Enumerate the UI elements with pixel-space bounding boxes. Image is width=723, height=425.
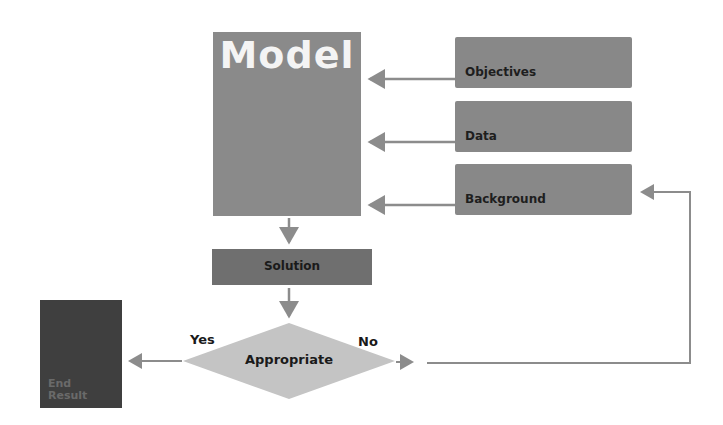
objectives-label: Objectives xyxy=(465,65,536,79)
model-box: Model xyxy=(213,32,361,216)
data-box: Data xyxy=(455,101,632,152)
yes-label: Yes xyxy=(190,332,215,347)
objectives-box: Objectives xyxy=(455,37,632,88)
background-box: Background xyxy=(455,164,632,215)
solution-box: Solution xyxy=(212,249,372,285)
decision-label: Appropriate xyxy=(184,352,394,367)
solution-label: Solution xyxy=(212,259,372,273)
data-label: Data xyxy=(465,129,497,143)
end-result-label: End Result xyxy=(48,378,87,402)
end-result-box: End Result xyxy=(40,300,122,408)
end-result-line2: Result xyxy=(48,389,87,402)
background-label: Background xyxy=(465,192,546,206)
no-label: No xyxy=(358,334,378,349)
model-title: Model xyxy=(213,30,361,80)
feedback-loop-to-background xyxy=(427,192,690,363)
